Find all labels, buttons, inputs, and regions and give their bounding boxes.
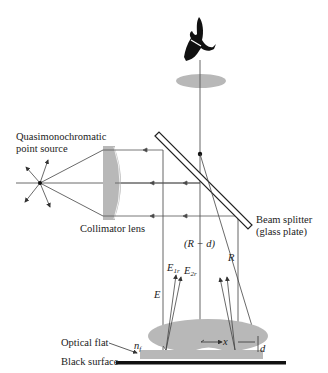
beam-splitter-label-line2: (glass plate) <box>256 226 312 238</box>
eyepiece-lens <box>176 74 226 88</box>
optical-flat-label: Optical flat <box>61 337 109 349</box>
beam-splitter-label-line1: Beam splitter <box>256 214 312 226</box>
optics-diagram <box>0 0 328 373</box>
r-minus-d-label: (R − d) <box>184 238 215 250</box>
e1r-label: E1r <box>167 262 180 277</box>
e-label: E <box>154 289 160 301</box>
r-label: R <box>228 252 234 264</box>
beam-splitter-label: Beam splitter (glass plate) <box>256 214 312 238</box>
beam-splitter <box>155 132 252 229</box>
d-label: d <box>260 343 265 355</box>
black-surface <box>116 361 286 365</box>
source-label-line1: Quasimonochromatic <box>16 131 106 143</box>
collimator-label: Collimator lens <box>80 223 145 235</box>
x-label: x <box>223 336 228 348</box>
nf-label: nf <box>134 340 141 355</box>
optical-flat <box>140 350 263 359</box>
e2r-label: E2r <box>184 265 197 280</box>
black-surface-label: Black surface <box>61 356 118 368</box>
eye-icon <box>184 17 216 61</box>
source-label: Quasimonochromatic point source <box>16 131 106 155</box>
source-label-line2: point source <box>16 143 106 155</box>
